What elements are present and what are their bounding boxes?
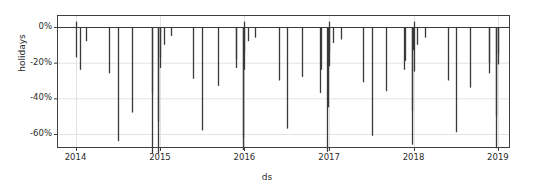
chart-figure: 0%-20%-40%-60% 201420152016201720182019 …: [0, 0, 534, 191]
x-tick-label: 2018: [384, 152, 444, 162]
y-axis-tick-labels: 0%-20%-40%-60%: [6, 0, 52, 191]
y-axis-title: holidays: [17, 13, 27, 93]
holidays-bar-chart: [0, 0, 534, 191]
x-tick-label: 2016: [214, 152, 274, 162]
x-tick-label: 2015: [130, 152, 190, 162]
y-tick-label: -60%: [12, 128, 52, 138]
x-tick-label: 2017: [299, 152, 359, 162]
x-tick-label: 2019: [468, 152, 528, 162]
y-tick-label: -40%: [12, 92, 52, 102]
x-tick-label: 2014: [46, 152, 106, 162]
x-axis-title: ds: [0, 172, 534, 182]
